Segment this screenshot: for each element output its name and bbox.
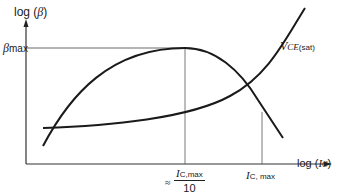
tick1-num-sub: C,max — [180, 170, 203, 179]
vce-sat-label: VCE(sat) — [280, 40, 315, 52]
tick-label-ic-max: IC, max — [246, 170, 275, 181]
vce-suffix: (sat) — [299, 43, 315, 52]
x-axis-label: log (IC) — [297, 158, 331, 169]
beta-max-subscript: max — [9, 43, 28, 54]
x-axis-label-suffix: ) — [327, 157, 331, 169]
y-axis-label-prefix: log ( — [14, 5, 37, 19]
tick1-denominator: 10 — [174, 181, 205, 194]
tick2-sub: C, max — [250, 172, 275, 181]
beta-max-label: βmax — [3, 42, 28, 54]
approx-symbol: ≈ — [165, 178, 171, 188]
tick1-numerator: IC,max — [174, 167, 205, 181]
vce-subscript: CE — [287, 42, 299, 52]
y-axis-arrow-icon — [24, 19, 29, 27]
tick-label-ic-max-over-10: IC,max 10 — [174, 167, 205, 194]
diagram-canvas — [0, 0, 345, 195]
y-axis-label-suffix: ) — [43, 5, 47, 19]
x-axis-label-prefix: log ( — [297, 157, 318, 169]
y-axis-label: log (β) — [14, 6, 47, 18]
beta-curve — [43, 48, 283, 146]
